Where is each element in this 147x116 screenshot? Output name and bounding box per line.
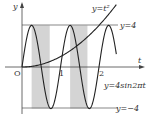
y-axis-arrow-icon xyxy=(20,2,24,8)
chart: y t O 1 2 y=t² y=4 y=−4 y=4sin2πt xyxy=(0,0,147,116)
y-axis-label: y xyxy=(12,2,18,11)
sine-label: y=4sin2πt xyxy=(103,81,146,90)
line-bottom-label: y=−4 xyxy=(115,104,139,113)
parabola-label: y=t² xyxy=(91,4,110,13)
t-axis-arrow-icon xyxy=(139,65,145,69)
line-top-label: y=4 xyxy=(119,21,136,30)
tick-2-label: 2 xyxy=(99,69,104,78)
t-axis-label: t xyxy=(138,56,142,65)
plot-area: y t O 1 2 y=t² y=4 y=−4 y=4sin2πt xyxy=(0,0,147,116)
origin-label: O xyxy=(14,69,21,78)
tick-1-label: 1 xyxy=(59,69,64,78)
